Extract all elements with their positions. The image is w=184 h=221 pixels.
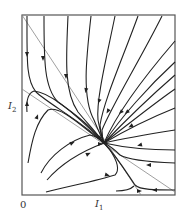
trajectory <box>104 62 175 143</box>
trajectories <box>27 16 175 192</box>
trajectory <box>41 135 104 173</box>
trajectory <box>47 143 104 180</box>
x-axis-subscript: 1 <box>99 204 103 212</box>
arrow-icon <box>152 188 157 192</box>
arrow-icon <box>25 52 29 57</box>
trajectory-arrows <box>25 52 157 193</box>
trajectory <box>100 16 138 143</box>
arrow-icon <box>146 163 151 167</box>
trajectory <box>116 186 134 191</box>
arrow-icon <box>25 101 29 106</box>
origin-text: 0 <box>20 199 26 210</box>
arrow-icon <box>137 143 143 148</box>
x-axis-label: I1 <box>95 198 103 212</box>
arrow-icon <box>34 113 39 119</box>
trajectory <box>104 108 175 143</box>
phase-portrait <box>0 0 184 221</box>
trajectory <box>104 89 175 143</box>
arrow-icon <box>117 109 123 115</box>
y-axis-subscript: 2 <box>12 106 16 114</box>
trajectory <box>46 143 118 192</box>
arrow-icon <box>84 88 89 94</box>
y-axis-label: I2 <box>8 100 16 114</box>
arrow-icon <box>85 151 91 157</box>
origin-label: 0 <box>20 199 26 210</box>
